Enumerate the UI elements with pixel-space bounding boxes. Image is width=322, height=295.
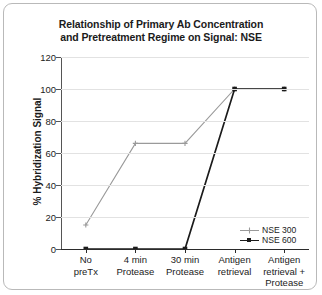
legend-item-nse-300[interactable]: NSE 300	[240, 225, 296, 235]
chart-title: Relationship of Primary Ab Concentration…	[4, 18, 317, 44]
legend-label: NSE 600	[262, 235, 296, 245]
legend-swatch	[240, 226, 259, 235]
data-point-marker	[133, 141, 138, 146]
legend-marker	[247, 228, 251, 232]
y-tick-label: 80	[26, 116, 56, 127]
x-tick-label-line: Antigen	[252, 254, 316, 266]
x-tick-label-line: Protease	[252, 277, 316, 289]
chart-title-line-2: and Pretreatment Regime on Signal: NSE	[4, 31, 317, 44]
x-tick-mark	[284, 249, 285, 253]
legend-marker	[247, 238, 251, 242]
y-tick-label: 100	[26, 84, 56, 95]
y-tick-label: 20	[26, 212, 56, 223]
x-tick-mark	[135, 249, 136, 253]
x-tick-mark	[185, 249, 186, 253]
x-tick-mark	[235, 249, 236, 253]
chart-legend: NSE 300NSE 600	[240, 225, 296, 245]
gridline	[61, 57, 309, 58]
legend-label: NSE 300	[262, 225, 296, 235]
y-tick-label: 60	[26, 148, 56, 159]
data-point-marker	[83, 222, 88, 227]
legend-swatch	[240, 236, 259, 245]
legend-item-nse-600[interactable]: NSE 600	[240, 235, 296, 245]
series-line-nse-300	[86, 89, 284, 225]
y-tick-label: 0	[26, 244, 56, 255]
y-tick-label: 120	[26, 52, 56, 63]
x-tick-mark	[86, 249, 87, 253]
gridline	[61, 217, 309, 218]
gridline	[61, 185, 309, 186]
gridline	[61, 153, 309, 154]
gridline	[61, 121, 309, 122]
y-tick-label: 40	[26, 180, 56, 191]
x-tick-label: Antigenretrieval +Protease	[252, 254, 316, 289]
gridline	[61, 89, 309, 90]
figure-frame: Relationship of Primary Ab Concentration…	[3, 3, 317, 290]
chart-title-line-1: Relationship of Primary Ab Concentration	[4, 18, 317, 31]
x-tick-label-line: retrieval +	[252, 266, 316, 278]
plot-area	[61, 57, 309, 249]
